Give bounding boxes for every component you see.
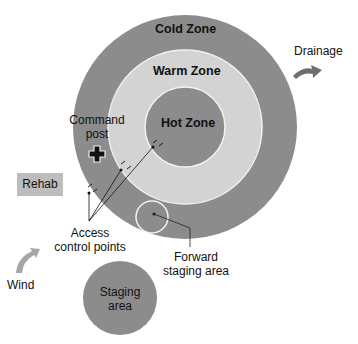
wind-arrow-icon [16, 248, 40, 273]
hot-zone-label: Hot Zone [161, 116, 215, 130]
warm-zone-label: Warm Zone [153, 64, 221, 78]
drainage-arrow-icon [293, 65, 322, 79]
wind-label: Wind [7, 278, 34, 292]
drainage-label: Drainage [294, 44, 343, 58]
forward-staging-area-label: Forward staging area [156, 250, 236, 278]
staging-area-label: Staging area [95, 285, 145, 313]
command-post-label: Command post [68, 113, 126, 141]
cold-zone-label: Cold Zone [155, 22, 216, 36]
access-control-points-label: Access control points [54, 226, 126, 254]
rehab-box: Rehab [17, 173, 63, 196]
